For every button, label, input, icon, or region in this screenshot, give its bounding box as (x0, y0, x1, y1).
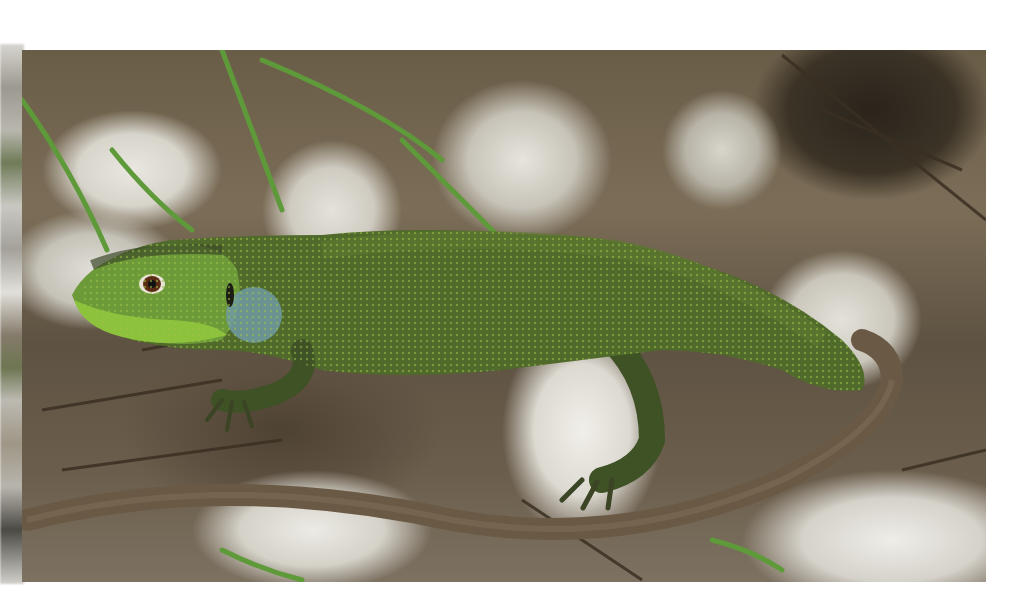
lizard-photo (22, 50, 986, 582)
blurred-page-edge (0, 44, 24, 584)
page-background (0, 0, 1022, 610)
lizard-hind-leg (602, 340, 652, 480)
photo-illustration (22, 50, 986, 582)
